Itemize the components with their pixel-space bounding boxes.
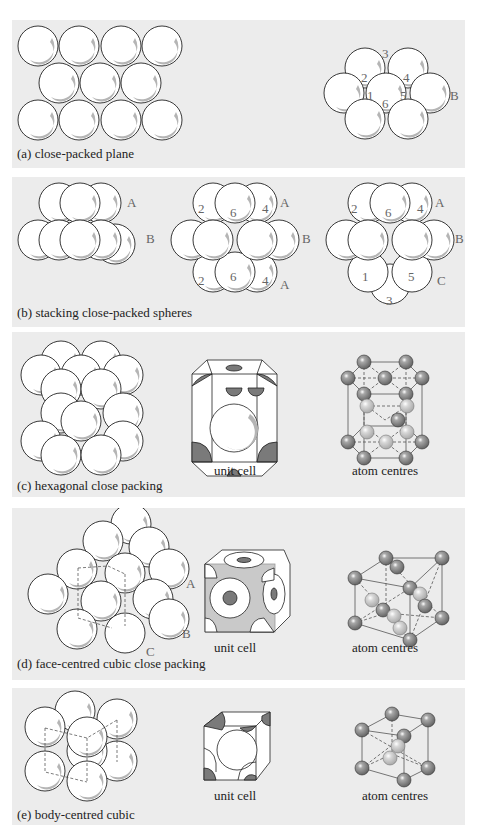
hcp-unit-cell-label: unit cell bbox=[185, 463, 285, 479]
svg-text:3: 3 bbox=[382, 46, 389, 61]
panel-b-stacking: A B 2 6 4 A B 2 6 4 A bbox=[12, 177, 465, 327]
svg-text:A: A bbox=[127, 195, 137, 210]
fcc-atom-centres bbox=[348, 551, 449, 647]
bcc-atom-centres-label: atom centres bbox=[345, 788, 445, 804]
svg-text:4: 4 bbox=[403, 70, 410, 85]
svg-text:6: 6 bbox=[230, 269, 237, 284]
fcc-unit-cell bbox=[205, 550, 290, 632]
svg-text:2: 2 bbox=[361, 70, 368, 85]
svg-text:5: 5 bbox=[408, 269, 415, 284]
svg-text:B: B bbox=[455, 231, 464, 246]
bcc-unit-cell bbox=[204, 712, 270, 780]
panel-a-caption: (a) close-packed plane bbox=[17, 146, 134, 162]
panel-c-caption: (c) hexagonal close packing bbox=[17, 478, 162, 494]
hcp-unit-cell bbox=[192, 360, 277, 476]
bcc-sphere-cluster bbox=[25, 691, 137, 801]
svg-text:A: A bbox=[435, 195, 445, 210]
close-packed-grid bbox=[18, 26, 182, 140]
svg-text:2: 2 bbox=[351, 201, 358, 216]
svg-text:5: 5 bbox=[400, 88, 407, 103]
svg-text:4: 4 bbox=[417, 201, 424, 216]
svg-text:1: 1 bbox=[362, 269, 369, 284]
svg-text:2: 2 bbox=[198, 201, 205, 216]
svg-text:6: 6 bbox=[230, 205, 237, 220]
svg-text:A: A bbox=[280, 195, 290, 210]
hcp-atom-centres bbox=[341, 355, 429, 465]
stack-ab: A B bbox=[18, 183, 155, 264]
stack-aba: 2 6 4 A B 2 6 4 A bbox=[171, 183, 311, 292]
hcp-atom-centres-label: atom centres bbox=[335, 463, 435, 479]
svg-text:B: B bbox=[146, 231, 155, 246]
panel-d-fcc: A B C bbox=[12, 508, 465, 680]
hexagonal-cluster: 3 2 4 1 5 6 B bbox=[324, 46, 459, 139]
fcc-atom-centres-label: atom centres bbox=[335, 640, 435, 656]
bcc-diagram bbox=[12, 688, 465, 825]
panel-c-hcp: unit cell atom centres (c) hexagonal clo… bbox=[12, 332, 465, 497]
hcp-sphere-stack bbox=[21, 341, 143, 475]
svg-text:B: B bbox=[182, 626, 191, 641]
svg-text:C: C bbox=[437, 273, 446, 288]
stack-abc: 2 6 4 A B 1 5 3 C bbox=[326, 183, 464, 308]
panel-b-caption: (b) stacking close-packed spheres bbox=[17, 305, 192, 321]
panel-e-bcc: unit cell atom centres (e) body-centred … bbox=[12, 688, 465, 825]
panel-e-caption: (e) body-centred cubic bbox=[17, 807, 135, 823]
panel-a-close-packed-plane: 3 2 4 1 5 6 B (a) close-packed plane bbox=[12, 20, 465, 168]
svg-text:6: 6 bbox=[385, 205, 392, 220]
svg-text:A: A bbox=[280, 277, 290, 292]
svg-text:6: 6 bbox=[382, 96, 389, 111]
svg-text:B: B bbox=[450, 88, 459, 103]
svg-text:1: 1 bbox=[367, 88, 374, 103]
svg-text:4: 4 bbox=[262, 273, 269, 288]
panel-d-caption: (d) face-centred cubic close packing bbox=[17, 656, 205, 672]
fcc-unit-cell-label: unit cell bbox=[185, 640, 285, 656]
svg-text:A: A bbox=[186, 576, 196, 591]
svg-text:3: 3 bbox=[386, 293, 393, 308]
svg-text:B: B bbox=[302, 231, 311, 246]
bcc-unit-cell-label: unit cell bbox=[185, 788, 285, 804]
svg-text:2: 2 bbox=[198, 273, 205, 288]
svg-text:4: 4 bbox=[262, 201, 269, 216]
fcc-sphere-pyramid: A B C bbox=[28, 508, 196, 659]
bcc-atom-centres bbox=[355, 707, 435, 787]
